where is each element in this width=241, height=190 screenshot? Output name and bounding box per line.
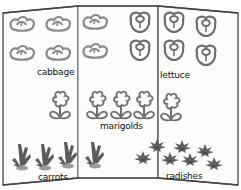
label-lettuce: lettuce [160, 70, 190, 80]
label-carrots: carrots [38, 172, 68, 182]
label-radishes: radishes [166, 171, 202, 181]
label-marigolds: marigolds [100, 121, 143, 131]
trifold-garden-board [0, 0, 241, 190]
label-cabbage: cabbage [37, 67, 74, 77]
